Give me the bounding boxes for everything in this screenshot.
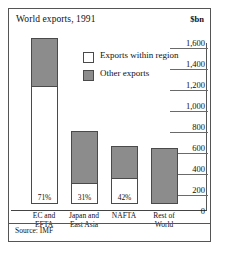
bar-nafta[interactable]: 42% [111, 146, 138, 204]
bar-value-label: 31% [72, 193, 97, 202]
bar-segment-exports-within-region[interactable]: 71% [32, 87, 57, 203]
source-note: Source: IMF [15, 226, 53, 235]
gray-square-icon [83, 70, 94, 81]
bar-value-label: 42% [112, 193, 137, 202]
plot-area: 1,600 1,400 1,200 1,000 800 600 400 200 … [9, 27, 210, 205]
y-axis-tick-800: 800 [172, 122, 206, 132]
y-axis-tick-1600: 1,600 [172, 38, 206, 48]
source-divider [9, 223, 210, 224]
chart-legend: Exports within region Other exports [83, 51, 179, 87]
y-axis-tick-1000: 1,000 [172, 101, 206, 111]
bar-ec-and-efta[interactable]: 71% [31, 38, 58, 204]
x-axis-label-rest-of-world: Rest of World [141, 211, 187, 229]
page-title: World exports, 1991 [16, 14, 96, 24]
y-axis-unit-label: $bn [190, 14, 204, 24]
bar-japan-and-east-asia[interactable]: 31% [71, 131, 98, 204]
bar-rest-of-world[interactable] [151, 148, 178, 204]
bar-segment-exports-within-region[interactable]: 42% [112, 179, 137, 203]
chart-figure: World exports, 1991 $bn 1,600 1,400 1,20… [8, 8, 211, 242]
bar-segment-other-exports[interactable] [72, 132, 97, 184]
legend-item-exports-within-region[interactable]: Exports within region [83, 51, 179, 63]
legend-item-other-exports[interactable]: Other exports [83, 69, 179, 81]
bar-segment-other-exports[interactable] [112, 147, 137, 179]
bar-segment-other-exports[interactable] [32, 39, 57, 87]
bar-value-label: 71% [32, 193, 57, 202]
bar-segment-exports-within-region[interactable]: 31% [72, 184, 97, 203]
white-square-icon [83, 52, 94, 63]
bar-segment-other-exports[interactable] [152, 149, 177, 203]
